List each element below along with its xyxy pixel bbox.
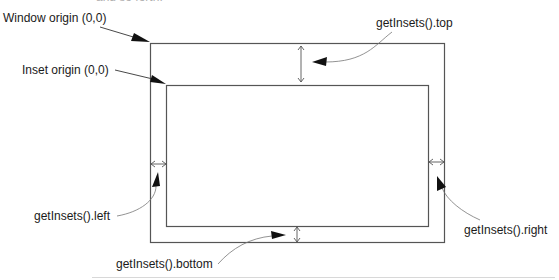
inset-origin-label: Inset origin (0,0) xyxy=(22,63,109,77)
top-pointer-arrow xyxy=(312,32,392,66)
insets-diagram xyxy=(0,0,559,280)
left-inset-double-arrow xyxy=(151,161,166,167)
window-origin-label: Window origin (0,0) xyxy=(3,11,106,25)
right-inset-double-arrow xyxy=(429,159,444,165)
inset-area xyxy=(167,86,429,227)
insets-left-label: getInsets().left xyxy=(34,209,110,223)
window-frame xyxy=(151,44,445,243)
window-origin-arrow xyxy=(100,27,150,42)
bottom-inset-double-arrow xyxy=(294,227,300,242)
right-pointer-arrow xyxy=(437,176,480,220)
insets-bottom-label: getInsets().bottom xyxy=(116,257,213,271)
insets-top-label: getInsets().top xyxy=(376,16,453,30)
insets-right-label: getInsets().right xyxy=(464,223,547,237)
bottom-pointer-arrow xyxy=(218,231,286,264)
inset-origin-arrow xyxy=(115,70,166,84)
top-inset-double-arrow xyxy=(298,46,304,82)
left-pointer-arrow xyxy=(117,172,160,216)
bottom-divider xyxy=(92,277,555,278)
